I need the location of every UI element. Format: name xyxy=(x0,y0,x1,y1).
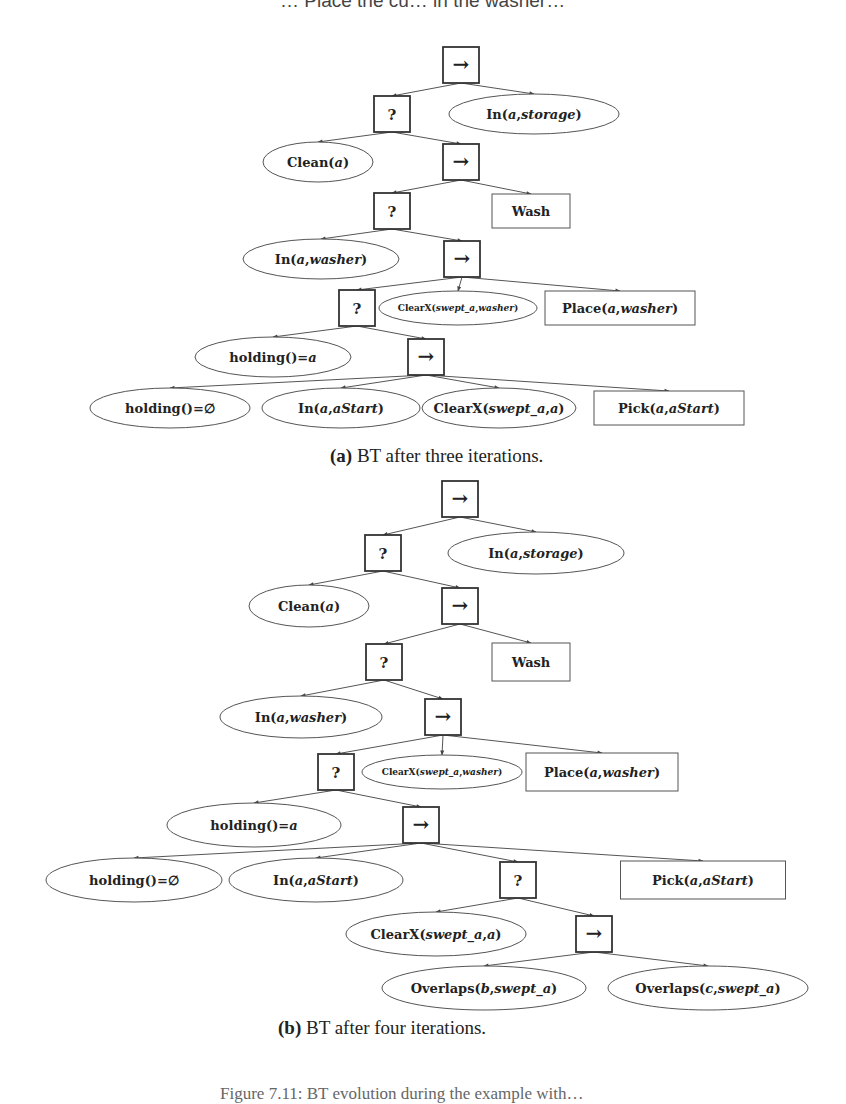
fallback-question-icon: ? xyxy=(332,764,341,782)
bt-node-condition-c_storage: In(a,storage) xyxy=(449,94,619,134)
sequence-arrow-icon: → xyxy=(586,921,603,945)
bt-node-condition-c_clearx_w: ClearX(swept_a,washer) xyxy=(362,755,522,789)
bt-node-condition-c_in_start: In(a,aStart) xyxy=(229,858,403,902)
bt-node-condition-c_clean: Clean(a) xyxy=(263,142,373,182)
tree-edge xyxy=(336,735,443,754)
bt-node-condition-c_hold_a: holding()=a xyxy=(195,337,351,377)
bt-node-fallback-f1: ? xyxy=(374,96,410,132)
node-label: Place(a,washer) xyxy=(562,301,678,316)
bt-node-fallback-f4: ? xyxy=(500,862,536,898)
node-label: In(a,storage) xyxy=(486,107,581,122)
node-label: Overlaps(b,swept_a) xyxy=(411,981,558,997)
bt-node-condition-c_in_start: In(a,aStart) xyxy=(262,388,420,428)
bt-node-condition-c_clearx_a: ClearX(swept_a,a) xyxy=(346,912,526,956)
tree-edge xyxy=(357,326,426,339)
bt-node-sequence-r: → xyxy=(443,47,479,83)
tree-edge xyxy=(254,790,336,803)
fallback-question-icon: ? xyxy=(388,106,397,124)
bt-node-condition-c_hold_empty: holding()=∅ xyxy=(46,858,222,902)
node-label: Clean(a) xyxy=(287,155,349,170)
tree-edge xyxy=(392,83,461,96)
sequence-arrow-icon: → xyxy=(452,486,469,510)
node-label: holding()=a xyxy=(210,818,297,833)
bt-node-sequence-s4: → xyxy=(408,339,444,375)
bt-node-fallback-f1: ? xyxy=(365,535,401,571)
bt-node-sequence-s4: → xyxy=(403,807,439,843)
tree-edge xyxy=(594,952,708,966)
tree-edge xyxy=(421,843,703,861)
tree-edge xyxy=(442,735,443,755)
tree-edge xyxy=(458,277,462,291)
tree-edge xyxy=(392,132,461,144)
tree-edge xyxy=(170,375,426,388)
fallback-question-icon: ? xyxy=(353,300,362,318)
node-label: Overlaps(c,swept_a) xyxy=(635,981,780,997)
bt-node-sequence-s2: → xyxy=(443,144,479,180)
tree-edge xyxy=(384,624,460,644)
bt-node-condition-c_hold_a: holding()=a xyxy=(167,803,341,847)
tree-edge xyxy=(384,680,443,699)
node-label: Clean(a) xyxy=(278,599,340,614)
node-label: Pick(a,aStart) xyxy=(618,401,720,416)
bt-node-sequence-r: → xyxy=(442,481,478,517)
bt-node-fallback-f3: ? xyxy=(339,290,375,326)
sequence-arrow-icon: → xyxy=(454,246,471,270)
bt-node-sequence-s5: → xyxy=(576,916,612,952)
bt-node-condition-c_inwasher: In(a,washer) xyxy=(220,696,382,738)
sequence-arrow-icon: → xyxy=(453,52,470,76)
tree-edge xyxy=(460,624,531,643)
sequence-arrow-icon: → xyxy=(413,812,430,836)
node-label: holding()=a xyxy=(229,350,316,365)
sequence-arrow-icon: → xyxy=(452,593,469,617)
bt-node-condition-c_clean: Clean(a) xyxy=(249,585,369,627)
tree-edge xyxy=(443,735,602,753)
tree-edge xyxy=(518,898,594,916)
tree-edge xyxy=(484,952,594,966)
tree-edge xyxy=(273,326,357,337)
node-label: In(a,storage) xyxy=(488,546,583,561)
bt-node-action-a_place: Place(a,washer) xyxy=(545,291,695,325)
tree-edge xyxy=(392,229,462,241)
node-label: In(a,aStart) xyxy=(298,401,384,416)
node-label: Wash xyxy=(511,204,551,219)
bt-node-action-a_pick: Pick(a,aStart) xyxy=(594,391,744,425)
tree-edge xyxy=(461,180,531,194)
tree-edge xyxy=(392,180,461,193)
figure-a-bt-three-iterations: →?In(a,storage)Clean(a)→?WashIn(a,washer… xyxy=(90,47,744,467)
sequence-arrow-icon: → xyxy=(418,344,435,368)
bt-node-condition-c_inwasher: In(a,washer) xyxy=(243,239,399,279)
bt-node-condition-c_overlap_b: Overlaps(b,swept_a) xyxy=(382,966,586,1010)
node-label: ClearX(swept_a,washer) xyxy=(398,303,519,314)
tree-edge xyxy=(357,277,462,290)
tree-edge xyxy=(461,83,534,94)
fallback-question-icon: ? xyxy=(388,203,397,221)
bt-node-action-a_place: Place(a,washer) xyxy=(526,753,678,791)
bt-node-action-a_pick: Pick(a,aStart) xyxy=(621,861,786,899)
cutoff-bottom-text: Figure 7.11: BT evolution during the exa… xyxy=(220,1084,584,1104)
tree-edge xyxy=(309,571,383,585)
bt-node-condition-c_hold_empty: holding()=∅ xyxy=(90,388,250,428)
tree-edge xyxy=(460,517,536,532)
tree-edge xyxy=(383,571,460,588)
bt-node-sequence-s3: → xyxy=(425,699,461,735)
tree-edge xyxy=(426,375,669,391)
bt-node-fallback-f2: ? xyxy=(374,193,410,229)
node-label: Wash xyxy=(511,655,551,670)
sequence-arrow-icon: → xyxy=(453,149,470,173)
fallback-question-icon: ? xyxy=(379,545,388,563)
node-label: Pick(a,aStart) xyxy=(652,873,754,888)
tree-edge xyxy=(318,132,392,142)
bt-node-action-a_wash: Wash xyxy=(492,194,570,228)
node-label: ClearX(swept_a,a) xyxy=(370,927,501,943)
node-label: holding()=∅ xyxy=(125,401,215,416)
node-label: Place(a,washer) xyxy=(544,765,660,780)
tree-edge xyxy=(336,790,421,807)
sequence-arrow-icon: → xyxy=(435,704,452,728)
bt-node-fallback-f2: ? xyxy=(366,644,402,680)
tree-edge xyxy=(383,517,460,535)
bt-node-condition-c_overlap_c: Overlaps(c,swept_a) xyxy=(608,966,808,1010)
node-label: holding()=∅ xyxy=(89,873,179,888)
node-label: In(a,washer) xyxy=(255,710,347,725)
bt-node-sequence-s2: → xyxy=(442,588,478,624)
